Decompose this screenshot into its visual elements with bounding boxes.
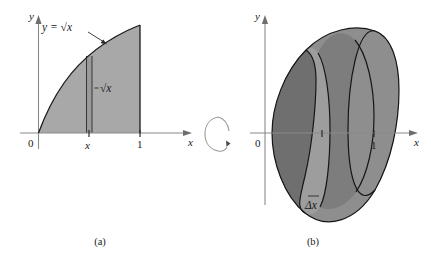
origin-label-a: 0	[28, 137, 34, 149]
strip-height-label: √x	[100, 82, 112, 94]
caption-b: (b)	[307, 236, 320, 248]
y-axis-label-b: y	[254, 10, 260, 22]
panel-b: y x 0 1 Δx (b)	[250, 10, 419, 248]
y-axis-label-a: y	[28, 10, 34, 22]
curve-label-leader	[88, 32, 104, 42]
tick-label-1-b: 1	[371, 139, 377, 151]
y-axis-arrow-b	[262, 15, 268, 24]
x-axis-label-b: x	[413, 136, 419, 148]
tick-label-1-a: 1	[137, 138, 143, 150]
x-axis-label-a: x	[187, 136, 193, 148]
panel-a: y x 0 x 1 y = √x √x (a)	[20, 10, 193, 248]
representative-strip	[87, 56, 93, 133]
origin-label-b: 0	[255, 137, 261, 149]
curve-equation-label: y = √x	[41, 21, 73, 34]
revolve-arrow-icon	[205, 117, 231, 151]
slice-thickness-label: Δx	[304, 199, 318, 211]
figure-solid-of-revolution: y x 0 x 1 y = √x √x (a)	[0, 0, 431, 255]
tick-label-x-a: x	[84, 139, 90, 151]
y-axis-arrow-a	[35, 15, 41, 24]
caption-a: (a)	[94, 236, 106, 248]
